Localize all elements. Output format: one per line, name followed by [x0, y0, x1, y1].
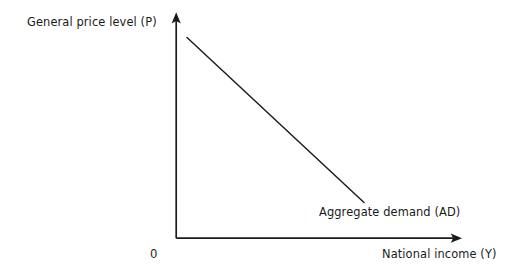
aggregate-demand-label: Aggregate demand (AD): [319, 206, 460, 219]
aggregate-demand-diagram: General price level (P) National income …: [0, 0, 510, 279]
diagram-canvas: [0, 0, 510, 279]
origin-label: 0: [150, 248, 158, 261]
aggregate-demand-curve: [187, 38, 364, 203]
y-axis-label: General price level (P): [27, 16, 157, 29]
x-axis-label: National income (Y): [382, 248, 497, 261]
